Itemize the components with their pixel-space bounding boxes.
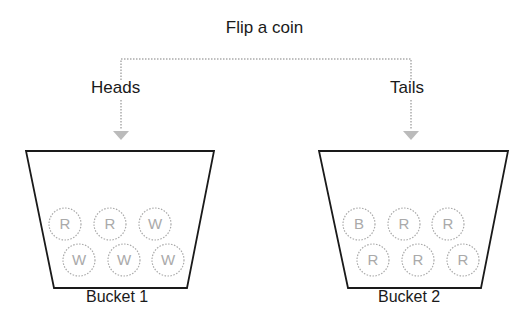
- svg-text:R: R: [105, 215, 116, 232]
- svg-text:W: W: [117, 251, 132, 268]
- svg-text:R: R: [399, 215, 410, 232]
- svg-text:R: R: [368, 251, 379, 268]
- svg-text:R: R: [443, 215, 454, 232]
- svg-text:R: R: [458, 251, 469, 268]
- svg-text:W: W: [148, 215, 163, 232]
- svg-text:R: R: [413, 251, 424, 268]
- svg-text:R: R: [60, 215, 71, 232]
- connector-line: [121, 59, 411, 80]
- bucket-2-label: Bucket 2: [378, 288, 440, 306]
- bucket-1-label: Bucket 1: [86, 288, 148, 306]
- heads-label: Heads: [91, 78, 140, 98]
- diagram-title: Flip a coin: [0, 18, 529, 38]
- svg-text:W: W: [72, 251, 87, 268]
- tails-label: Tails: [390, 78, 424, 98]
- bucket-1-ball-letters: R R W W W W: [60, 215, 176, 268]
- svg-text:W: W: [161, 251, 176, 268]
- bucket-2-ball-letters: B R R R R R: [354, 215, 469, 268]
- tails-arrowhead-icon: [403, 131, 419, 140]
- diagram-lines: R R W W W W B R R R R R: [0, 0, 529, 329]
- heads-arrowhead-icon: [113, 131, 129, 140]
- svg-text:B: B: [354, 215, 364, 232]
